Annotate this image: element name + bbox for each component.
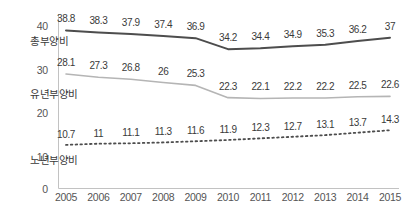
point-label: 13.1 [308,119,342,130]
point-label: 10.7 [49,129,83,140]
point-label: 25.3 [179,68,213,79]
point-label: 38.3 [81,15,115,26]
point-label: 14.3 [373,114,403,125]
point-label: 11.9 [211,124,245,135]
legend-label-elderly: 노년부양비 [30,152,78,167]
point-label: 22.5 [341,80,375,91]
chart-container: 40 30 20 10 0 20052006200720082009201020… [0,0,403,211]
point-label: 11.3 [146,126,180,137]
point-label: 22.2 [276,81,310,92]
point-label: 38.8 [49,13,83,24]
point-label: 12.7 [276,121,310,132]
legend-label-youth: 유년부양비 [30,86,78,101]
point-label: 22.2 [308,81,342,92]
point-label: 12.3 [243,122,277,133]
y-tick-20: 20 [22,107,48,119]
point-label: 27.3 [81,60,115,71]
point-label: 37.9 [114,17,148,28]
y-tick-0: 0 [22,183,48,195]
point-label: 35.3 [308,28,342,39]
legend-label-total: 총부양비 [30,33,68,48]
point-label: 11 [81,128,115,139]
y-tick-30: 30 [22,64,48,76]
point-label: 26 [146,66,180,77]
y-tick-40: 40 [22,20,48,32]
point-label: 22.6 [373,79,403,90]
point-label: 37.4 [146,19,180,30]
point-label: 37 [373,21,403,32]
point-label: 26.8 [114,62,148,73]
point-label: 13.7 [341,117,375,128]
point-label: 34.2 [211,32,245,43]
point-label: 22.3 [211,81,245,92]
point-label: 11.1 [114,127,148,138]
x-tick-2015: 2015 [370,191,403,203]
point-label: 34.9 [276,29,310,40]
point-label: 22.1 [243,81,277,92]
point-label: 36.9 [179,21,213,32]
point-label: 28.1 [49,57,83,68]
point-label: 11.6 [179,125,213,136]
point-label: 34.4 [243,31,277,42]
point-label: 36.2 [341,24,375,35]
